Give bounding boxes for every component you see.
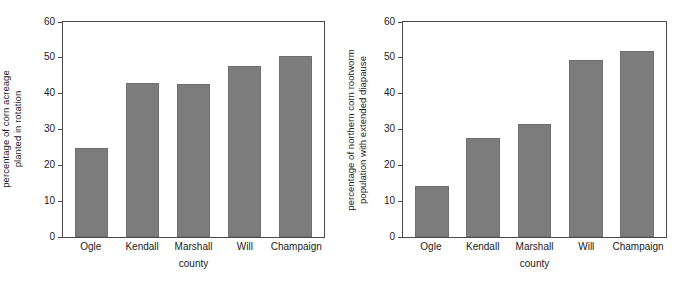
chart-panel-right: percentage of northern corn rootworm pop…	[345, 0, 689, 284]
plot-area-right: 0102030405060	[402, 21, 667, 238]
bar	[228, 66, 262, 237]
y-axis-tick-label: 0	[49, 231, 55, 243]
bar	[126, 83, 160, 237]
bar	[75, 148, 109, 237]
bar-group-left	[63, 22, 324, 237]
plot-area-left: 0102030405060	[62, 21, 325, 238]
y-axis-tick-label: 30	[44, 123, 55, 135]
x-axis-tick-label: Ogle	[405, 241, 457, 253]
x-axis-tick-label: Kendall	[116, 241, 167, 253]
y-axis-tick-label: 60	[384, 16, 395, 28]
bar-group-right	[403, 22, 666, 237]
bar	[518, 124, 552, 237]
bar	[620, 51, 654, 237]
bar	[279, 56, 313, 237]
bar-slot	[612, 22, 663, 237]
bar	[177, 84, 211, 237]
y-axis-tick-label: 10	[44, 195, 55, 207]
x-axis-tick-label: Ogle	[65, 241, 116, 253]
bar-slot	[560, 22, 611, 237]
y-axis-tick-label: 10	[384, 195, 395, 207]
bar	[415, 186, 449, 237]
bar	[569, 60, 603, 237]
y-axis-title-right: percentage of northern corn rootworm pop…	[345, 17, 371, 243]
x-axis-title-left: county	[62, 258, 325, 270]
y-axis-tick-label: 60	[44, 16, 55, 28]
y-axis-tick-label: 40	[384, 87, 395, 99]
x-axis-tick-label: Will	[560, 241, 612, 253]
figure-two-bar-charts: percentage of corn acreage planted in ro…	[0, 0, 689, 284]
bar-slot	[270, 22, 321, 237]
x-axis-tick-label: Marshall	[168, 241, 219, 253]
bar-slot	[457, 22, 508, 237]
y-axis-tick-label: 20	[44, 159, 55, 171]
y-axis-tick-label: 0	[389, 231, 395, 243]
x-axis-tick-label: Kendall	[457, 241, 509, 253]
x-axis-tick-label: Champaign	[612, 241, 664, 253]
y-axis-tick-label: 50	[44, 51, 55, 63]
y-axis-tick-label: 20	[384, 159, 395, 171]
chart-panel-left: percentage of corn acreage planted in ro…	[0, 0, 345, 284]
bar-slot	[168, 22, 219, 237]
x-axis-tick-labels-left: OgleKendallMarshallWillChampaign	[62, 241, 325, 253]
y-axis-tick-label: 30	[384, 123, 395, 135]
y-axis-title-left: percentage of corn acreage planted in ro…	[0, 18, 26, 240]
bar-slot	[509, 22, 560, 237]
x-axis-tick-label: Will	[219, 241, 270, 253]
x-axis-tick-label: Marshall	[509, 241, 561, 253]
bar	[466, 138, 500, 237]
x-axis-title-right: county	[402, 258, 667, 270]
bar-slot	[117, 22, 168, 237]
bar-slot	[219, 22, 270, 237]
y-axis-tick-label: 40	[44, 87, 55, 99]
x-axis-tick-labels-right: OgleKendallMarshallWillChampaign	[402, 241, 667, 253]
bar-slot	[406, 22, 457, 237]
bar-slot	[66, 22, 117, 237]
y-axis-tick-label: 50	[384, 51, 395, 63]
x-axis-tick-label: Champaign	[271, 241, 322, 253]
